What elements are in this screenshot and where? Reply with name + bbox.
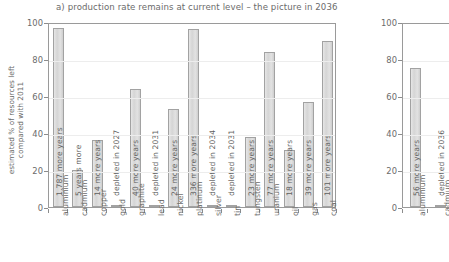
y-tick-label: 100	[21, 18, 43, 28]
bar-slot: 101 more years	[322, 24, 333, 207]
x-tick-label: graphite	[137, 183, 146, 216]
y-tick-label: 60	[375, 92, 397, 102]
grid-line	[403, 61, 449, 62]
x-tick-mark	[427, 209, 428, 213]
x-tick-label: copper	[99, 189, 108, 216]
bar-value-annotation: depleted in 2034	[208, 130, 217, 196]
bar-slot: 24 more years	[168, 24, 179, 207]
x-tick-label: nickel	[176, 193, 185, 216]
bar-slot: depleted in 2034	[207, 24, 218, 207]
bar-value-annotation: depleted in 2031	[227, 130, 236, 196]
bar-value-annotation: depleted in 2027	[112, 130, 121, 196]
chart-a-plot-area: 1,787 more years5 years more14 more year…	[48, 23, 336, 208]
bar-value-annotation: 18 more years	[285, 140, 294, 196]
x-tick-label: cadmium	[443, 180, 449, 216]
bar-slot: 39 more years	[303, 24, 314, 207]
grid-line	[403, 172, 449, 173]
chart-a-bars: 1,787 more years5 years more14 more year…	[49, 24, 335, 207]
bar-slot: 14 more years	[92, 24, 103, 207]
bar-slot: 23 more years	[245, 24, 256, 207]
x-tick-label: cadmium	[80, 180, 89, 216]
y-tick-label: 0	[21, 203, 43, 213]
bar-value-annotation: 14 more years	[93, 140, 102, 196]
bar-slot: 77 more years	[264, 24, 275, 207]
bar-slot: 40 more years	[130, 24, 141, 207]
chart-a-y-axis-label-line1: estimated % of resources left	[7, 66, 16, 175]
bar-value-annotation: 24 more years	[169, 140, 178, 196]
x-tick-label: tin	[233, 206, 242, 216]
bar-slot: depleted in 2031	[226, 24, 237, 207]
grid-line	[49, 172, 335, 173]
x-tick-label: platinum	[195, 181, 204, 216]
x-tick-label: lead	[157, 199, 166, 216]
y-tick-label: 0	[375, 203, 397, 213]
bar-slot: depleted in 2031	[149, 24, 160, 207]
x-tick-label: uranium	[272, 183, 281, 216]
bar-value-annotation: 39 more years	[304, 140, 313, 196]
y-tick-label: 20	[375, 166, 397, 176]
x-tick-label: gas	[310, 202, 319, 216]
y-tick-label: 20	[21, 166, 43, 176]
y-tick-label: 80	[375, 55, 397, 65]
x-tick-label: silver	[214, 195, 223, 216]
x-tick-label: oil	[291, 207, 300, 216]
bar-value-annotation: 101 more years	[323, 135, 332, 196]
chart-panel-a: a) production rate remains at current le…	[0, 0, 356, 262]
y-tick-label: 40	[375, 129, 397, 139]
grid-line	[49, 135, 335, 136]
grid-line	[403, 98, 449, 99]
grid-line	[403, 135, 449, 136]
bar-slot: 336 more years	[188, 24, 199, 207]
bar-slot: 18 more years	[284, 24, 295, 207]
bar-slot: depleted in 2027	[111, 24, 122, 207]
grid-line	[49, 61, 335, 62]
x-tick-label: aluminium	[418, 175, 427, 216]
x-tick-label: tungsten	[253, 181, 262, 216]
bar-value-annotation: depleted in 2031	[150, 130, 159, 196]
chart-panel-b: b) production conti estimated % of resou…	[356, 0, 449, 262]
x-tick-mark	[48, 209, 49, 213]
grid-line	[49, 98, 335, 99]
x-tick-label: gold	[118, 199, 127, 216]
x-tick-mark	[402, 209, 403, 213]
y-tick-label: 40	[21, 129, 43, 139]
y-tick-label: 80	[21, 55, 43, 65]
x-tick-label: aluminium	[61, 175, 70, 216]
y-tick-label: 100	[375, 18, 397, 28]
chart-a-title: a) production rate remains at current le…	[56, 2, 338, 12]
x-tick-label: coal	[329, 200, 338, 216]
y-tick-label: 60	[21, 92, 43, 102]
